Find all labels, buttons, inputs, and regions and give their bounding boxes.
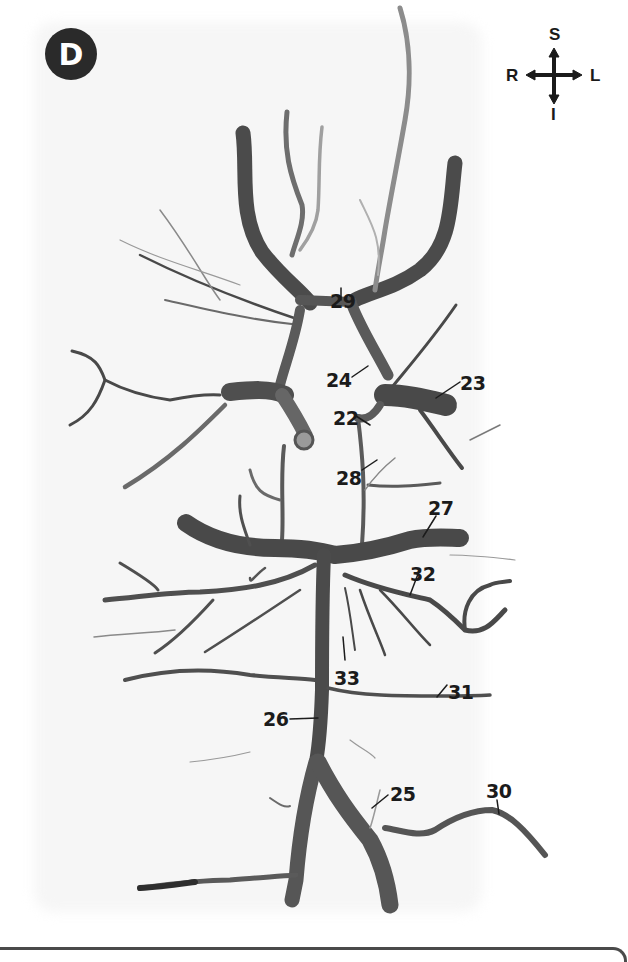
label-25: 25 xyxy=(390,785,415,804)
compass-superior-label: S xyxy=(549,26,560,43)
label-33: 33 xyxy=(334,669,359,688)
label-29: 29 xyxy=(330,292,355,311)
orientation-compass-icon xyxy=(522,44,586,108)
compass-right-label: R xyxy=(506,67,518,84)
label-24: 24 xyxy=(326,371,351,390)
label-23: 23 xyxy=(460,374,485,393)
label-31: 31 xyxy=(448,683,473,702)
label-28: 28 xyxy=(336,469,361,488)
label-30: 30 xyxy=(486,782,511,801)
compass-left-label: L xyxy=(590,67,600,84)
caption-frame-border xyxy=(0,947,627,962)
compass-inferior-label: I xyxy=(551,106,556,123)
label-32: 32 xyxy=(410,565,435,584)
label-26: 26 xyxy=(263,710,288,729)
label-22: 22 xyxy=(333,409,358,428)
label-27: 27 xyxy=(428,499,453,518)
panel-letter-badge: D xyxy=(45,28,97,80)
